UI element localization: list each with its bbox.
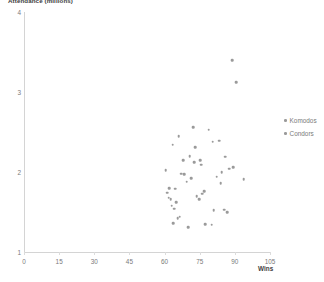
data-point (193, 161, 196, 164)
data-point (228, 168, 231, 171)
legend-swatch-icon (284, 119, 287, 122)
data-point (218, 140, 221, 143)
data-point (176, 217, 179, 220)
data-point (207, 128, 210, 131)
data-point (198, 198, 201, 201)
data-point (211, 224, 214, 227)
data-point (174, 188, 177, 191)
plot-area (0, 0, 324, 282)
data-point (220, 182, 223, 185)
chart-legend: KomodosCondors (284, 114, 324, 140)
data-point (204, 223, 207, 226)
x-tick-mark (200, 252, 201, 255)
data-point (185, 180, 188, 183)
legend-item-komodos[interactable]: Komodos (284, 114, 324, 127)
data-point (212, 209, 215, 212)
legend-item-condors[interactable]: Condors (284, 127, 324, 140)
data-point (164, 169, 167, 172)
data-point (242, 178, 245, 181)
data-point (235, 81, 238, 84)
data-point (194, 146, 197, 149)
data-point (177, 135, 180, 138)
x-tick-mark (129, 252, 130, 255)
data-point (215, 176, 218, 179)
data-point (183, 173, 186, 176)
data-point (171, 144, 174, 147)
legend-label: Condors (290, 130, 314, 138)
data-point (196, 195, 199, 198)
data-point (187, 226, 190, 229)
data-point (172, 222, 175, 225)
legend-swatch-icon (284, 132, 287, 135)
x-tick-mark (235, 252, 236, 255)
data-point (173, 208, 176, 211)
scatter-chart: Attendance (millions) 1234 0153045607590… (0, 0, 324, 282)
data-point (188, 155, 191, 158)
data-point (170, 204, 173, 207)
data-point (212, 140, 215, 143)
data-point (166, 192, 169, 195)
data-point (232, 166, 235, 169)
x-tick-mark (165, 252, 166, 255)
data-point (168, 187, 171, 190)
data-point (190, 177, 193, 180)
data-point (226, 211, 229, 214)
data-point (175, 201, 178, 204)
legend-label: Komodos (290, 117, 317, 125)
data-point (192, 126, 195, 129)
data-point (220, 171, 223, 174)
data-point (231, 59, 234, 62)
x-tick-mark (59, 252, 60, 255)
data-point (200, 164, 203, 167)
x-tick-mark (270, 252, 271, 255)
data-point (224, 156, 227, 159)
data-point (201, 192, 204, 195)
x-tick-mark (94, 252, 95, 255)
x-tick-mark (24, 252, 25, 255)
data-point (182, 159, 185, 162)
data-point (199, 159, 202, 162)
data-point (169, 198, 172, 201)
